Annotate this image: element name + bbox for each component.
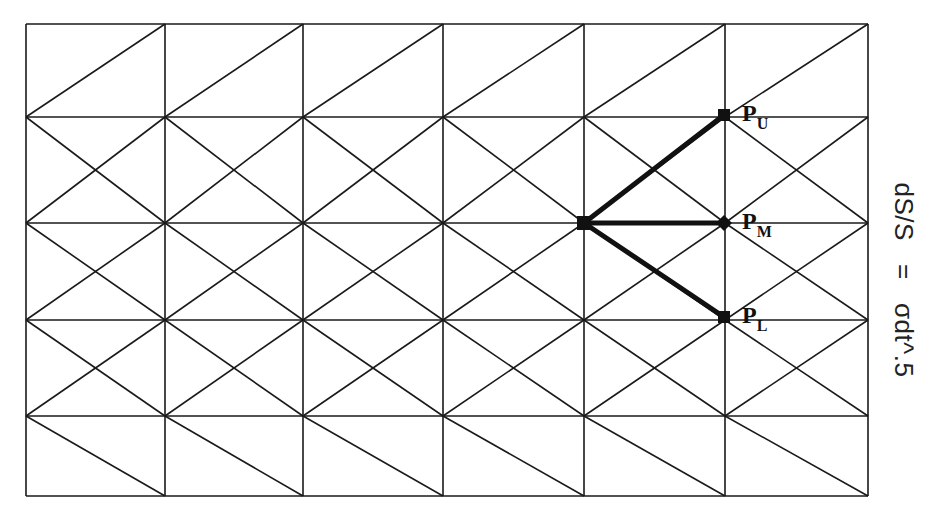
diagonal-line [165, 416, 303, 496]
diagonal-line [584, 416, 725, 496]
node-pl [718, 311, 730, 323]
diagonal-line [26, 416, 165, 496]
highlighted-branches [584, 115, 724, 317]
label-pu: PU [742, 100, 769, 132]
diagonal-line [303, 24, 443, 117]
origin-node [577, 216, 591, 230]
diagonal-line [303, 416, 443, 496]
diagonal-line [26, 24, 165, 117]
node-pu [718, 109, 730, 121]
branch-nodes [577, 109, 732, 323]
diagonal-line [725, 416, 868, 496]
lattice-grid [26, 24, 868, 496]
diagonal-line [165, 24, 303, 117]
diagonal-line [584, 24, 725, 117]
diagonal-line [443, 416, 584, 496]
step-size-formula: dS/S = σdt^.5 [888, 182, 919, 377]
branch-to-pl [584, 223, 724, 317]
label-pm: PM [742, 208, 772, 240]
diagonal-line [443, 24, 584, 117]
label-pl: PL [742, 302, 767, 334]
trinomial-lattice-diagram: PUPMPL [0, 0, 938, 520]
